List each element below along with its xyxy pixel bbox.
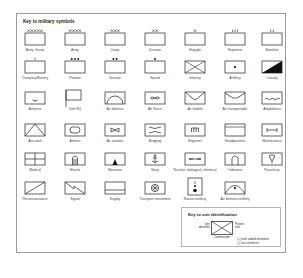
anti-tank-icon [24,120,46,138]
symbol-parachute: Parachute [252,149,292,179]
air-transportable-icon [224,88,246,106]
mountain-icon [104,149,126,167]
platoon-icon [64,57,86,75]
bridging-icon [144,120,166,138]
regiment-icon [224,29,246,47]
symbol-label: Battalion [246,48,298,52]
commander-label: Commander [209,236,235,239]
transport-icon [144,178,166,196]
artillery-icon [224,57,246,75]
parent-unit-label: Parent unit [235,223,249,230]
missile-icon [64,149,86,167]
army-icon [64,29,86,47]
corps-icon [104,29,126,47]
army-group-icon [24,29,46,47]
symbol-ordnance: Ordnance [215,149,255,179]
symbol-section: Section [95,57,135,87]
headquarters-icon [224,120,246,138]
ordnance-icon [224,149,246,167]
company-icon [24,57,46,75]
unit-id-diagram-icon [211,221,233,235]
symbol-label: Air defence artillery [209,197,261,201]
symbol-label: Cavalry [246,76,298,80]
air-force-icon [144,88,166,106]
unit-identifier-label: Unit identifier [193,223,210,230]
air-mobile-icon [184,88,206,106]
symbol-anti-tank: Anti-tank [15,120,55,150]
symbol-battalion: Battalion [252,29,292,59]
airborne-icon [24,88,46,106]
symbol-air-transportable: Air transportable [215,88,255,118]
symbol-air-defence-artillery: Air defence artillery [215,178,255,208]
infantry-icon [184,57,206,75]
key-title: Key to military symbols [23,19,75,24]
symbol-label: Maintenance [246,139,298,143]
symbol-airborne: Airborne [15,88,55,118]
symbol-rocket-artillery: Rocket artillery [175,178,215,208]
symbol-company: Company/Battery [15,57,55,87]
symbol-brigade: Brigade [175,29,215,59]
symbol-label: Parachute [246,168,298,172]
symbol-division: Division [135,29,175,59]
symbol-air-force: Air Force [135,88,175,118]
symbol-air-mobile: Air mobile [175,88,215,118]
section-icon [104,57,126,75]
unit-id-title: Key to unit identification [188,212,237,217]
unit-identification-box: Key to unit identification Unit identifi… [181,207,281,247]
symbol-label: Amphibious [246,107,298,111]
air-aviation-icon [104,120,126,138]
symbol-regiment: Regiment [215,29,255,59]
symbol-amphibious: Amphibious [252,88,292,118]
symbol-unit-hq: Unit HQ [55,88,95,118]
supply-icon [104,178,126,196]
symbol-squad: Squad [135,57,175,87]
battalion-icon [261,29,283,47]
air-defence-artillery-icon [224,178,246,196]
symbol-reconnaissance: Reconnaissance [15,178,55,208]
note-less-elements: (-) less elements [237,242,259,245]
maintenance-icon [261,120,283,138]
symbol-platoon: Platoon [55,57,95,87]
symbol-transport: Transport movement [135,178,175,208]
symbol-air-defence: Air defence [95,88,135,118]
air-defence-icon [104,88,126,106]
engineer-icon [184,120,206,138]
rocket-artillery-icon [184,178,206,196]
symbol-engineer: Engineer [175,120,215,150]
symbol-navy: Navy [135,149,175,179]
symbol-cavalry: Cavalry [252,57,292,87]
parachute-icon [261,149,283,167]
brigade-icon [184,29,206,47]
symbol-bridging: Bridging [135,120,175,150]
symbol-armour: Armour [55,120,95,150]
symbol-corps: Corps [95,29,135,59]
squad-icon [144,57,166,75]
symbol-mountain: Mountain [95,149,135,179]
symbol-air-aviation: Air aviation [95,120,135,150]
symbol-maintenance: Maintenance [252,120,292,150]
symbol-headquarters: Headquarters [215,120,255,150]
medical-icon [24,149,46,167]
symbol-missile: Missile [55,149,95,179]
reconnaissance-icon [24,178,46,196]
symbol-army-group: Army Group [15,29,55,59]
division-icon [144,29,166,47]
nbc-icon [184,149,206,167]
signal-icon [64,178,86,196]
navy-icon [144,149,166,167]
armour-icon [64,120,86,138]
symbol-medical: Medical [15,149,55,179]
cavalry-icon [261,57,283,75]
symbol-nbc: Nuclear, biological, chemical [175,149,215,179]
unit-hq-icon [64,88,86,106]
symbol-army: Army [55,29,95,59]
symbol-signal: Signal [55,178,95,208]
amphibious-icon [261,88,283,106]
symbol-infantry: Infantry [175,57,215,87]
symbol-supply: Supply [95,178,135,208]
symbol-artillery: Artillery [215,57,255,87]
